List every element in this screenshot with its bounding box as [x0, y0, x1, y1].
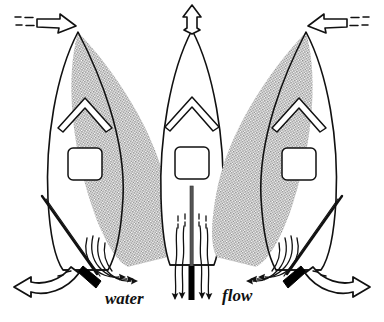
rudder-steering-diagram: water flow	[0, 0, 384, 322]
cockpit-right	[282, 148, 316, 180]
caption-flow: flow	[222, 286, 253, 305]
cockpit-left	[68, 148, 102, 180]
rudder-blade-center	[189, 266, 195, 300]
rudder-shaft-center	[190, 186, 193, 268]
diagram-canvas: water flow	[0, 0, 384, 322]
cockpit-center	[175, 147, 209, 179]
caption-water: water	[105, 289, 144, 308]
